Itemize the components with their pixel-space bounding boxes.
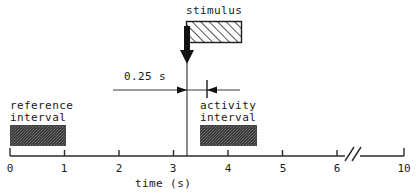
reference-interval-bar (10, 125, 66, 146)
axis-break-icon (345, 147, 361, 161)
tick-label-5: 5 (268, 162, 298, 175)
reference-interval-label-line2: interval (10, 111, 66, 124)
stimulus-bar (187, 22, 242, 43)
axis-title-time: time (s) (135, 177, 191, 190)
tick-label-0: 0 (0, 162, 25, 175)
tick-label-6: 6 (322, 162, 352, 175)
tick-label-10: 10 (389, 162, 416, 175)
tick-label-4: 4 (213, 162, 243, 175)
duration-label: 0.25 s (124, 70, 166, 83)
tick-label-3: 3 (158, 162, 188, 175)
time-axis (10, 148, 404, 156)
activity-interval-bar (200, 125, 257, 146)
tick-label-1: 1 (49, 162, 79, 175)
timeline-figure: stimulus 0.25 s reference interval activ… (0, 0, 416, 195)
stimulus-label: stimulus (186, 4, 242, 17)
tick-label-2: 2 (104, 162, 134, 175)
activity-interval-label-line2: interval (200, 111, 256, 124)
